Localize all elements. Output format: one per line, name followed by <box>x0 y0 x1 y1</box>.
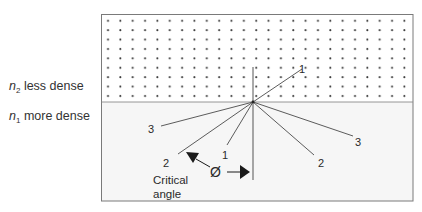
label-ray-2-right: 2 <box>318 157 324 169</box>
label-more-dense: n1 more dense <box>9 109 90 125</box>
diagram-canvas: 1 1 2 3 2 3 Ø Critical angle n2 less den… <box>0 0 422 212</box>
label-less-dense: n2 less dense <box>9 79 84 95</box>
subscript-2: 2 <box>16 86 20 95</box>
label-ray-3-reflected: 3 <box>355 136 361 148</box>
critical-angle-label-line1: Critical <box>153 174 188 186</box>
label-ray-3-incident: 3 <box>148 123 154 135</box>
dot-pattern <box>102 15 412 100</box>
subscript-1: 1 <box>16 116 20 125</box>
more-dense-text: more dense <box>24 109 90 123</box>
incidence-point <box>252 101 255 104</box>
symbol-n2: n <box>9 79 16 93</box>
critical-angle-label-line2: angle <box>153 188 181 200</box>
label-ray-1-incident: 1 <box>222 149 228 161</box>
less-dense-text: less dense <box>24 79 84 93</box>
more-dense-medium <box>102 102 414 201</box>
label-ray-1-refracted: 1 <box>299 63 305 75</box>
angle-symbol: Ø <box>210 164 221 180</box>
symbol-n1: n <box>9 109 16 123</box>
label-ray-2-incident: 2 <box>163 157 169 169</box>
